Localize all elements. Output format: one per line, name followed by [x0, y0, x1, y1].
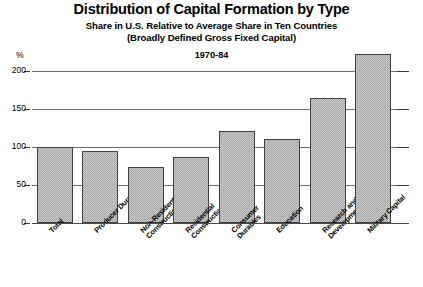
y-axis-tick-label: 50 [0, 180, 26, 189]
gridline [32, 109, 409, 110]
x-axis-baseline [32, 223, 409, 224]
bar [355, 54, 391, 223]
y-axis-tick-label: 200 [0, 66, 26, 75]
y-axis-tick-mark-right [397, 109, 409, 110]
y-axis-tick-label: 0 [0, 218, 26, 227]
y-axis-tick-mark-right [397, 185, 409, 186]
chart-figure: Distribution of Capital Formation by Typ… [0, 0, 423, 287]
plot-area: 050100150200TotalProducer DurablesNon-Re… [0, 0, 423, 287]
y-axis-tick-label: 150 [0, 104, 26, 113]
bar [37, 147, 73, 223]
y-axis-tick-mark-right [397, 71, 409, 72]
y-axis-tick-mark-right [397, 147, 409, 148]
gridline [32, 71, 409, 72]
y-axis-tick-label: 100 [0, 142, 26, 151]
bar [310, 98, 346, 223]
